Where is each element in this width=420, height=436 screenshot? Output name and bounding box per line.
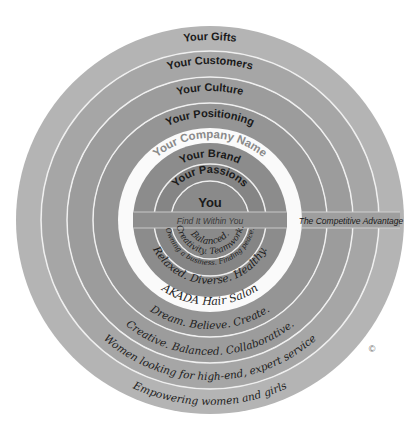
competitive-advantage-diagram: Find It Within You The Competitive Advan… <box>0 0 420 436</box>
competitive-band: Find It Within You The Competitive Advan… <box>133 212 404 228</box>
label-gifts: Your Gifts <box>183 30 238 44</box>
band-left-label: Find It Within You <box>177 216 244 226</box>
band-right-label: The Competitive Advantage <box>299 216 404 226</box>
label-you: You <box>198 195 222 210</box>
copyright-mark: © <box>369 344 376 354</box>
